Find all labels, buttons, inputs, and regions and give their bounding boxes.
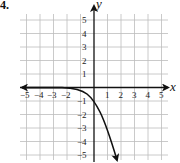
svg-text:−2: −2: [77, 110, 87, 120]
x-axis-label: x: [169, 79, 176, 94]
svg-text:1: 1: [105, 90, 110, 100]
svg-text:−4: −4: [77, 137, 87, 147]
svg-text:3: 3: [82, 42, 87, 52]
y-axis-label: y: [94, 0, 102, 11]
svg-text:5: 5: [159, 90, 164, 100]
svg-text:1: 1: [82, 69, 87, 79]
svg-text:−5: −5: [20, 90, 30, 100]
svg-text:2: 2: [119, 90, 124, 100]
svg-text:4: 4: [146, 90, 151, 100]
svg-text:−2: −2: [61, 90, 71, 100]
svg-text:−4: −4: [34, 90, 44, 100]
svg-text:−1: −1: [77, 96, 87, 106]
axes: [20, 6, 168, 162]
svg-text:2: 2: [82, 56, 87, 66]
svg-text:4: 4: [82, 29, 87, 39]
svg-text:−3: −3: [77, 123, 87, 133]
svg-text:5: 5: [82, 15, 87, 25]
graph: x y −5 −4 −3 −2 1 2 3 4 5 5 4 3 2 1 −1 −…: [0, 0, 180, 163]
svg-text:−5: −5: [77, 150, 87, 160]
svg-text:−3: −3: [47, 90, 57, 100]
svg-text:3: 3: [132, 90, 137, 100]
